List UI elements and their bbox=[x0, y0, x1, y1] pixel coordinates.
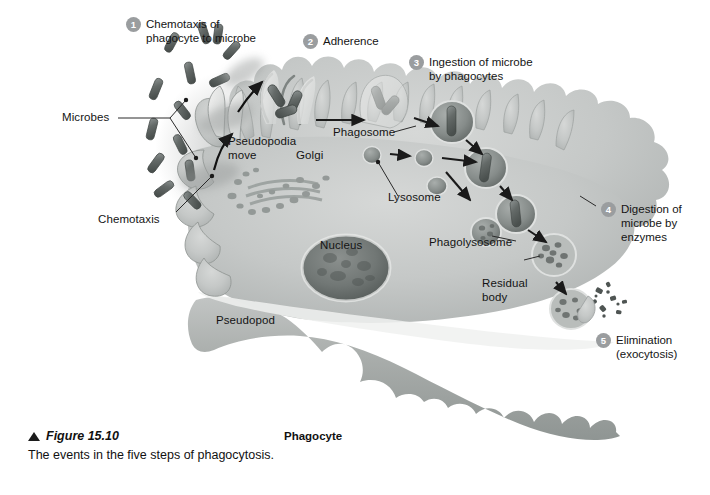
label-golgi: Golgi bbox=[296, 148, 323, 162]
label-microbes: Microbes bbox=[62, 110, 109, 124]
label-phagosome: Phagosome bbox=[333, 125, 395, 139]
figure-caption-text: The events in the five steps of phagocyt… bbox=[28, 448, 458, 462]
step-4-badge: 4 bbox=[601, 202, 616, 217]
label-lysosome: Lysosome bbox=[388, 190, 441, 204]
figure-number: Figure 15.10 bbox=[46, 429, 119, 443]
label-residual-body: Residual body bbox=[482, 276, 528, 304]
step-4-label: Digestion of microbe by enzymes bbox=[621, 202, 682, 244]
phagosome-vesicle-3 bbox=[496, 195, 536, 233]
step-2-callout: 2 Adherence bbox=[303, 34, 379, 49]
residual-body-vesicle bbox=[532, 234, 576, 276]
label-chemotaxis: Chemotaxis bbox=[98, 212, 160, 226]
step-1-label: Chemotaxis of phagocyte to microbe bbox=[146, 17, 256, 45]
step-5-label: Elimination (exocytosis) bbox=[616, 333, 677, 361]
figure-caption-block: Figure 15.10 The events in the five step… bbox=[28, 429, 458, 462]
label-phagolysosome: Phagolysosome bbox=[429, 235, 512, 249]
step-5-badge: 5 bbox=[596, 333, 611, 348]
step-2-badge: 2 bbox=[303, 34, 318, 49]
figure-number-line: Figure 15.10 bbox=[28, 429, 458, 443]
step-3-badge: 3 bbox=[409, 55, 424, 70]
label-nucleus: Nucleus bbox=[320, 238, 362, 252]
step-5-callout: 5 Elimination (exocytosis) bbox=[596, 333, 677, 361]
step-3-label: Ingestion of microbe by phagocytes bbox=[429, 55, 533, 83]
figure-canvas: 1 Chemotaxis of phagocyte to microbe 2 A… bbox=[0, 0, 710, 495]
phagosome-vesicle-2 bbox=[465, 148, 507, 188]
step-4-callout: 4 Digestion of microbe by enzymes bbox=[601, 202, 682, 244]
step-1-callout: 1 Chemotaxis of phagocyte to microbe bbox=[126, 17, 256, 45]
label-pseudopod: Pseudopod bbox=[216, 313, 275, 327]
step-3-callout: 3 Ingestion of microbe by phagocytes bbox=[409, 55, 533, 83]
step-2-label: Adherence bbox=[323, 34, 379, 48]
label-pseudopodia-move: Pseudopodia move bbox=[228, 134, 296, 162]
up-triangle-icon bbox=[28, 432, 40, 441]
phagosome-vesicle bbox=[430, 101, 474, 143]
step-1-badge: 1 bbox=[126, 17, 141, 32]
